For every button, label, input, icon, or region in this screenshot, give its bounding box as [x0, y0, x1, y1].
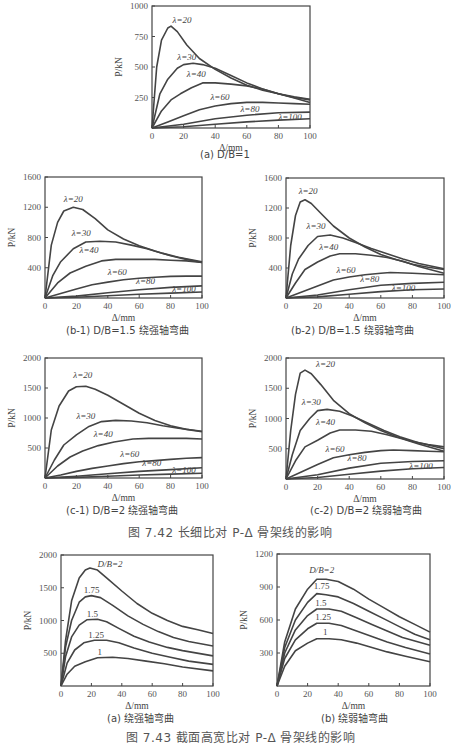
x-tick-label: 100: [195, 301, 209, 311]
x-tick-label: 60: [376, 301, 386, 311]
curve-label: λ=30: [71, 228, 91, 238]
x-tick-label: 80: [166, 301, 176, 311]
curve-label: λ=40: [318, 242, 338, 252]
curve-label: D/B=2: [308, 565, 335, 575]
curve-1.75: [61, 596, 213, 686]
x-tick-label: 80: [274, 131, 284, 141]
curve-label: 1: [97, 647, 102, 657]
curve-label: λ=80: [359, 274, 379, 284]
y-tick-label: 500: [135, 62, 149, 72]
plot-frame: [45, 358, 202, 478]
x-tick-label: 60: [364, 689, 374, 699]
curve-label: λ=100: [277, 112, 302, 122]
curve-label: λ=60: [325, 444, 345, 454]
x-tick-label: 40: [103, 481, 113, 491]
chart-c1-strong-axis: λ=20λ=30λ=40λ=60λ=80λ=100020406080100500…: [45, 358, 202, 478]
x-tick-label: 0: [284, 301, 289, 311]
x-tick-label: 0: [150, 131, 155, 141]
y-axis-label: P/kN: [248, 228, 258, 248]
x-tick-label: 0: [59, 689, 64, 699]
chart-c2-weak-axis: λ=20λ=30λ=40λ=60λ=80λ=100020406080100500…: [286, 358, 444, 479]
chart-c1-caption: (c-1) D/B=2 绕强轴弯曲: [66, 502, 178, 517]
chart-weak-axis-caption: (b) 绕弱轴弯曲: [321, 710, 388, 725]
x-tick-label: 100: [195, 481, 209, 491]
x-tick-label: 100: [423, 689, 437, 699]
y-tick-label: 500: [44, 648, 58, 658]
x-tick-label: 100: [437, 301, 451, 311]
y-tick-label: 1200: [23, 202, 42, 212]
chart-b1-caption: (b-1) D/B=1.5 绕强轴弯曲: [66, 322, 189, 337]
curve-label: D/B=2: [96, 559, 123, 569]
x-tick-label: 0: [284, 482, 289, 492]
curve-label: λ=60: [209, 92, 229, 102]
curve-label: λ=30: [75, 411, 95, 421]
y-tick-label: 600: [260, 615, 274, 625]
x-tick-label: 40: [117, 689, 127, 699]
x-tick-label: 20: [72, 301, 82, 311]
x-tick-label: 0: [275, 689, 280, 699]
curve-label: λ=100: [391, 283, 416, 293]
x-tick-label: 20: [87, 689, 97, 699]
curve-label: 1: [323, 627, 328, 637]
curve-label: λ=20: [315, 359, 335, 369]
y-axis-label: P/kN: [7, 408, 17, 428]
x-tick-label: 0: [43, 481, 48, 491]
y-tick-label: 1600: [264, 173, 283, 183]
y-tick-label: 1500: [23, 383, 42, 393]
x-tick-label: 40: [345, 482, 355, 492]
curve-label: λ=80: [347, 453, 367, 463]
y-tick-label: 2000: [264, 353, 283, 363]
curve-1.5: [61, 619, 213, 686]
curve-label: λ=100: [408, 461, 433, 471]
x-tick-label: 100: [303, 131, 317, 141]
curve-label: 1.75: [84, 585, 100, 595]
y-tick-label: 1500: [39, 583, 58, 593]
y-tick-label: 1000: [23, 413, 42, 423]
chart-strong-axis-caption: (a) 绕强轴弯曲: [107, 710, 174, 725]
x-tick-label: 40: [211, 131, 221, 141]
x-tick-label: 0: [43, 301, 48, 311]
y-tick-label: 1200: [255, 549, 274, 559]
y-tick-label: 800: [269, 233, 283, 243]
curve-label: λ=40: [186, 69, 206, 79]
x-tick-label: 80: [395, 689, 405, 699]
chart-b1-strong-axis: λ=20λ=30λ=40λ=60λ=80λ=100020406080100400…: [45, 177, 202, 298]
curve-label: λ=30: [301, 397, 321, 407]
curve-label: λ=20: [63, 194, 83, 204]
curve-label: 1.25: [315, 612, 331, 622]
chart-a-caption: (a) D/B=1: [200, 149, 250, 160]
curve-1: [277, 639, 430, 686]
y-axis-label: P/kN: [23, 611, 33, 631]
figure-7-43-caption: 图 7.43 截面高宽比对 P-Δ 骨架线的影响: [126, 728, 356, 745]
chart-strong-axis-aspect-ratio: D/B=21.751.51.25102040608010050010001500…: [61, 555, 213, 686]
y-axis-label: P/kN: [239, 610, 249, 630]
x-tick-label: 60: [376, 482, 386, 492]
y-tick-label: 2000: [23, 353, 42, 363]
chart-c2-caption: (c-2) D/B=2 绕弱轴弯曲: [310, 502, 422, 517]
y-tick-label: 800: [28, 233, 42, 243]
curve-label: λ=100: [171, 284, 196, 294]
y-tick-label: 1200: [264, 203, 283, 213]
x-tick-label: 60: [135, 301, 145, 311]
y-axis-label: P/kN: [7, 228, 17, 248]
curve-label: λ=60: [336, 265, 356, 275]
y-tick-label: 1000: [39, 616, 58, 626]
y-tick-label: 1600: [23, 172, 42, 182]
curve-label: 1.5: [87, 609, 99, 619]
curve-label: λ=40: [315, 417, 335, 427]
y-axis-label: P/kN: [248, 409, 258, 429]
y-tick-label: 750: [135, 32, 149, 42]
x-tick-label: 80: [408, 301, 418, 311]
x-tick-label: 100: [206, 689, 220, 699]
x-tick-label: 60: [135, 481, 145, 491]
curve-label: λ=20: [298, 186, 318, 196]
y-axis-label: P/kN: [114, 57, 124, 77]
curve-label: λ=40: [93, 429, 113, 439]
curve-label: λ=30: [176, 52, 196, 62]
x-tick-label: 40: [345, 301, 355, 311]
y-tick-label: 2000: [39, 550, 58, 560]
curve-label: λ=60: [119, 449, 139, 459]
x-tick-label: 20: [313, 482, 323, 492]
chart-b2-weak-axis: λ=20λ=30λ=40λ=60λ=80λ=100020406080100400…: [286, 178, 444, 298]
chart-weak-axis-aspect-ratio: D/B=21.751.51.25102040608010030060090012…: [277, 554, 430, 686]
